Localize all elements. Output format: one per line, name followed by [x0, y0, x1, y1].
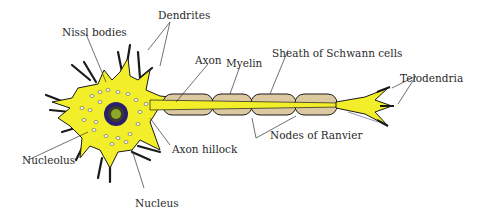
nucleolus-shape — [111, 109, 121, 119]
label-nucleus: Nucleus — [135, 198, 179, 209]
label-axon-hillock: Axon hillock — [172, 144, 237, 155]
label-nodes-of-ranvier: Nodes of Ranvier — [270, 130, 362, 141]
label-axon: Axon — [195, 55, 222, 66]
label-dendrites: Dendrites — [158, 10, 210, 21]
label-myelin: Myelin — [226, 58, 262, 69]
label-sheath: Sheath of Schwann cells — [272, 48, 402, 59]
label-nissl-bodies: Nissl bodies — [62, 27, 127, 38]
label-nucleolus: Nucleolus — [22, 155, 75, 166]
label-telodendria: Telodendria — [400, 73, 463, 84]
